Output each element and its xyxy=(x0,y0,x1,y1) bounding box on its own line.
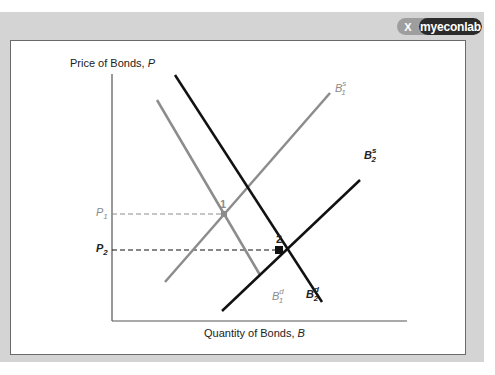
b2d-sub: 2 xyxy=(314,294,318,303)
equilibrium-point-1 xyxy=(221,211,227,217)
y-axis-label-text: Price of Bonds, xyxy=(70,57,145,69)
y-axis-symbol: P xyxy=(148,57,155,69)
curve-label-b2d: Bd2 xyxy=(306,286,318,303)
point-label-1: 1 xyxy=(220,198,226,210)
b1d-sub: 1 xyxy=(279,296,283,305)
curve-label-b2s: Bs2 xyxy=(364,147,376,164)
p2-sub: 2 xyxy=(103,248,107,257)
curve-label-b1s: Bs1 xyxy=(335,80,346,97)
p1-sub: 1 xyxy=(103,212,107,221)
b2s-sup: s xyxy=(372,146,376,155)
b1d-sup: d xyxy=(279,287,283,296)
point-label-2: 2 xyxy=(276,233,282,245)
price-label-p1: P1 xyxy=(96,206,108,221)
x-axis-label-text: Quantity of Bonds, xyxy=(204,327,295,339)
x-axis-label: Quantity of Bonds, B xyxy=(204,327,305,339)
demand-curve-b2d xyxy=(175,75,322,302)
b1s-sub: 1 xyxy=(341,88,345,97)
y-axis-label: Price of Bonds, P xyxy=(70,57,155,69)
curve-label-b1d: Bd1 xyxy=(272,288,283,305)
x-axis-symbol: B xyxy=(298,327,305,339)
price-label-p2: P2 xyxy=(96,242,108,257)
b2d-base: B xyxy=(306,288,314,300)
b1s-sup: s xyxy=(342,79,346,88)
b2d-sup: d xyxy=(314,285,319,294)
equilibrium-point-2 xyxy=(275,246,283,254)
b2s-sub: 2 xyxy=(371,155,375,164)
